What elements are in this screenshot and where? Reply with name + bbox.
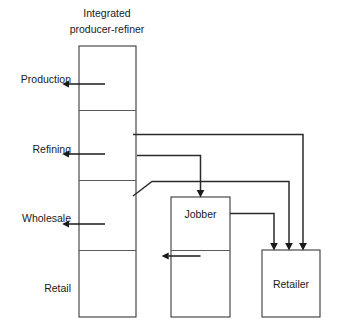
stage-label-wholesale: Wholesale — [22, 212, 71, 224]
diagram-title-line2: producer-refiner — [70, 23, 145, 35]
supply-chain-diagram: Integrated producer-refiner Production R… — [0, 0, 337, 334]
flow-arrowhead-wholesale-retailer — [285, 243, 293, 251]
node-label-jobber: Jobber — [184, 208, 217, 220]
flow-arrowhead-jobber-retailer — [270, 243, 278, 251]
diagram-title-line1: Integrated — [83, 7, 130, 19]
node-integrated-producer-refiner — [79, 46, 136, 317]
stage-label-production: Production — [21, 73, 71, 85]
node-label-retailer: Retailer — [273, 278, 310, 290]
stage-label-refining: Refining — [32, 143, 71, 155]
flow-jobber-to-retailer — [230, 214, 274, 244]
flow-arrowhead-refining-retailer — [299, 243, 307, 251]
flow-arrowhead-refining-jobber — [197, 190, 205, 198]
stage-label-retail: Retail — [44, 282, 71, 294]
diagram-canvas: Integrated producer-refiner Production R… — [0, 0, 337, 334]
